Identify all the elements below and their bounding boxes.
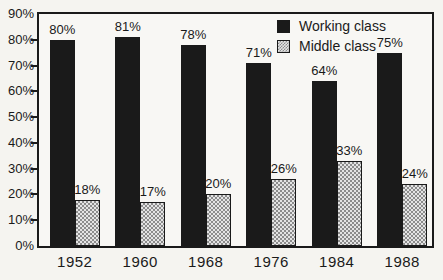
x-axis-category-label: 1988: [369, 254, 435, 270]
y-axis-tick: [31, 142, 37, 144]
middle-class-swatch-icon: [277, 40, 290, 53]
working-class-bar: [377, 53, 402, 246]
x-axis-category-label: 1952: [42, 254, 108, 270]
working-class-bar: [246, 63, 271, 246]
y-tick-label: 40%: [0, 136, 34, 150]
middle-class-bar: [140, 202, 165, 246]
x-axis-category-label: 1984: [304, 254, 370, 270]
legend-item-middle-class: Middle class: [277, 39, 386, 54]
working-class-value-label: 78%: [171, 28, 215, 42]
middle-class-bar: [75, 200, 100, 246]
y-tick-label: 70%: [0, 59, 34, 73]
middle-class-bar: [206, 194, 231, 246]
middle-class-bar: [337, 161, 362, 246]
working-class-value-label: 64%: [302, 64, 346, 78]
middle-class-value-label: 24%: [393, 167, 437, 181]
x-axis-category-label: 1960: [107, 254, 173, 270]
bar-chart-figure: 0%10%20%30%40%50%60%70%80%90%80%18%19528…: [0, 0, 443, 280]
y-tick-label: 0%: [0, 239, 34, 253]
y-tick-label: 20%: [0, 187, 34, 201]
y-tick-label: 80%: [0, 33, 34, 47]
working-class-value-label: 71%: [237, 46, 281, 60]
y-axis-tick: [31, 90, 37, 92]
x-axis-category-label: 1968: [173, 254, 239, 270]
middle-class-value-label: 17%: [131, 185, 175, 199]
legend: Working class Middle class: [277, 19, 386, 59]
legend-item-working-class: Working class: [277, 19, 386, 34]
working-class-bar: [50, 40, 75, 246]
x-axis-category-label: 1976: [238, 254, 304, 270]
middle-class-value-label: 26%: [262, 162, 306, 176]
y-tick-label: 90%: [0, 7, 34, 21]
y-tick-label: 60%: [0, 84, 34, 98]
y-axis-tick: [31, 193, 37, 195]
working-class-bar: [115, 37, 140, 246]
y-tick-label: 50%: [0, 110, 34, 124]
y-axis-tick: [31, 116, 37, 118]
y-axis-tick: [31, 168, 37, 170]
y-axis-tick: [31, 39, 37, 41]
legend-label-middle-class: Middle class: [299, 39, 376, 54]
working-class-swatch-icon: [277, 20, 290, 33]
middle-class-value-label: 20%: [196, 177, 240, 191]
middle-class-value-label: 33%: [327, 144, 371, 158]
y-tick-label: 30%: [0, 162, 34, 176]
middle-class-bar: [271, 179, 296, 246]
working-class-value-label: 80%: [40, 23, 84, 37]
y-axis-tick: [31, 65, 37, 67]
middle-class-value-label: 18%: [65, 183, 109, 197]
legend-label-working-class: Working class: [299, 19, 386, 34]
y-axis-tick: [31, 219, 37, 221]
working-class-value-label: 81%: [106, 20, 150, 34]
working-class-bar: [181, 45, 206, 246]
y-tick-label: 10%: [0, 213, 34, 227]
middle-class-bar: [402, 184, 427, 246]
working-class-bar: [312, 81, 337, 246]
